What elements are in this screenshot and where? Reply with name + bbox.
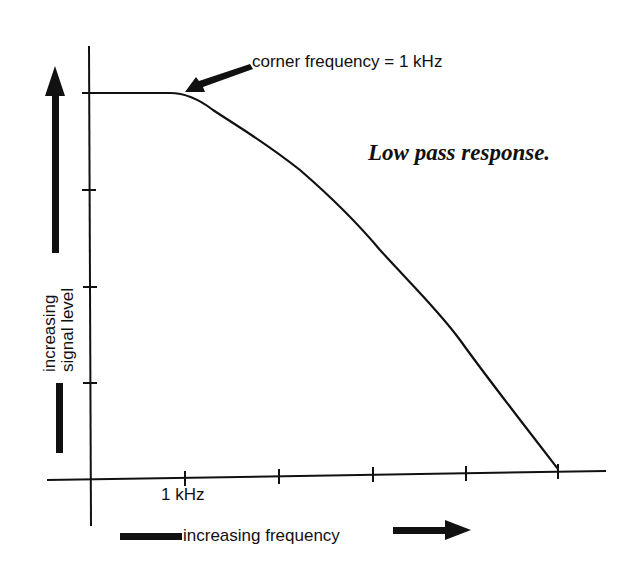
y-axis-label-line1: increasing xyxy=(40,295,59,373)
chart-title: Low pass response. xyxy=(367,140,550,165)
corner-frequency-label: corner frequency = 1 kHz xyxy=(252,52,442,71)
x-axis-label: increasing frequency xyxy=(183,526,340,545)
y-arrow-tail-icon xyxy=(56,383,63,453)
corner-arrow-icon xyxy=(185,64,253,92)
x-tick-label-1khz: 1 kHz xyxy=(161,485,204,504)
y-arrow-up-icon xyxy=(45,66,65,253)
x-arrow-right-icon xyxy=(393,520,471,540)
x-arrow-tail-icon xyxy=(120,533,182,540)
x-axis xyxy=(47,471,606,480)
low-pass-diagram: corner frequency = 1 kHz Low pass respon… xyxy=(0,0,633,585)
y-axis-label-line2: signal level xyxy=(58,288,77,372)
